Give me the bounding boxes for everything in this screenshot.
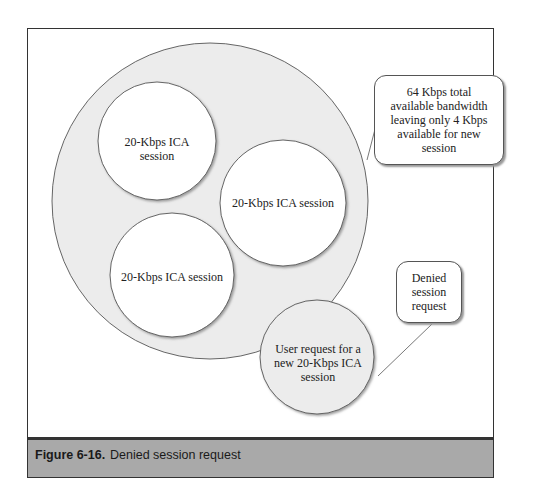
denied-callout: Denied session request	[396, 261, 462, 323]
session-label-2: 20-Kbps ICA session	[230, 196, 336, 210]
bandwidth-callout: 64 Kbps total available bandwidth leavin…	[374, 75, 504, 165]
session-label-1: 20-Kbps ICA session	[107, 135, 207, 163]
request-label: User request for a new 20-Kbps ICA sessi…	[272, 342, 364, 384]
session-label-3: 20-Kbps ICA session	[120, 270, 224, 284]
figure-caption-text: Denied session request	[110, 448, 241, 462]
denied-callout-connector	[378, 324, 432, 376]
figure-caption: Figure 6-16. Denied session request	[27, 437, 494, 478]
figure-number: Figure 6-16.	[35, 448, 105, 462]
